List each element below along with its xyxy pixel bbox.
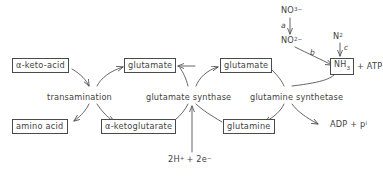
node-alpha-ketoglutarate: α-ketoglutarate xyxy=(101,119,176,134)
arrow-layer xyxy=(0,0,383,178)
label-step-b: b xyxy=(310,49,315,57)
node-glutamine: glutamine xyxy=(223,119,275,134)
reductant-prefix: 2H xyxy=(168,155,180,163)
arrow-synthetase-to-adp xyxy=(292,104,318,124)
arrow-synthase-to-glutamate-right xyxy=(196,67,218,86)
ammonia-subscript: 3 xyxy=(346,65,350,71)
label-step-c: c xyxy=(344,44,348,52)
label-glutamine-synthetase: glutamine synthetase xyxy=(250,93,343,101)
node-nitrite: NO2− xyxy=(281,36,302,44)
node-glutamate-left: glutamate xyxy=(124,58,176,73)
node-alpha-keto-acid: α-keto-acid xyxy=(12,58,69,73)
label-adp-phosphate: ADP + pi xyxy=(330,120,367,128)
arrow-ketoacid-to-transamination xyxy=(72,69,89,86)
reductant-electron-charge: − xyxy=(207,156,212,162)
label-transamination: transamination xyxy=(47,93,112,101)
adp-text: ADP + p xyxy=(330,120,366,128)
node-glutamate-right: glutamate xyxy=(220,58,272,73)
nitrogen-assimilation-diagram: α-keto-acid transamination amino acid α-… xyxy=(0,0,383,178)
curve-synthase-upleft xyxy=(180,68,188,86)
label-reductant: 2H++ 2e− xyxy=(168,155,212,163)
curve-synthase-downleft xyxy=(175,104,188,120)
arrow-transamination-to-glutamate xyxy=(97,67,123,86)
nitrate-formula: NO xyxy=(281,6,294,14)
nitrate-charge: − xyxy=(298,7,303,13)
label-step-a: a xyxy=(281,22,286,30)
node-ammonia: NH3 xyxy=(330,58,354,75)
curve-glutamate-to-synthetase xyxy=(272,70,284,86)
reductant-charge: + xyxy=(180,156,185,162)
arrow-transamination-to-aminoacid xyxy=(74,104,89,121)
label-glutamate-synthase: glutamate synthase xyxy=(146,93,231,101)
node-amino-acid: amino acid xyxy=(12,119,68,134)
label-atp: + ATP xyxy=(357,62,382,70)
dinitrogen-subscript: 2 xyxy=(339,33,343,39)
ammonia-atp-group: NH3 + ATP xyxy=(330,58,382,75)
nitrite-charge: − xyxy=(298,37,303,43)
nitrite-formula: NO xyxy=(281,36,294,44)
curve-glutamine-to-synthase xyxy=(196,104,222,122)
node-nitrate: NO3− xyxy=(281,6,302,14)
ammonia-formula: NH xyxy=(334,60,346,69)
reductant-middle: + 2e xyxy=(186,155,207,163)
node-dinitrogen: N2 xyxy=(333,32,343,40)
phosphate-subscript: i xyxy=(366,121,368,127)
